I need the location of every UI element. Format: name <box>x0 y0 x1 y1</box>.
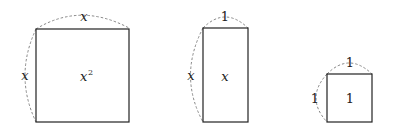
side-label: x <box>21 68 29 83</box>
area-label: x <box>221 69 229 84</box>
side-label: x <box>187 68 195 83</box>
area-label: 1 <box>346 91 354 106</box>
unit-tile: 1 1 1 <box>311 55 372 122</box>
area-label-exponent: 2 <box>88 68 93 77</box>
x-squared-tile: x x x 2 <box>21 9 129 122</box>
side-label: 1 <box>311 91 319 106</box>
top-label: 1 <box>346 55 354 70</box>
top-label: 1 <box>221 9 229 24</box>
algebra-tiles-diagram: x x x 2 1 x x 1 1 1 <box>0 0 393 133</box>
top-label: x <box>80 9 88 24</box>
area-label-base: x <box>80 69 88 84</box>
x-tile: 1 x x <box>187 9 248 122</box>
